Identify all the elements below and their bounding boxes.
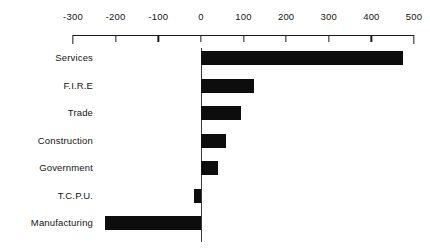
category-label: Trade [68, 107, 93, 118]
bar [201, 106, 241, 120]
x-tick-mark [158, 35, 159, 42]
bar [201, 161, 218, 175]
category-label: T.C.P.U. [58, 190, 93, 201]
bar [105, 216, 201, 230]
category-label: Services [55, 52, 93, 63]
x-tick-mark [200, 35, 201, 42]
x-tick-mark [115, 35, 116, 42]
bar [201, 79, 254, 93]
plot-area: ServicesF.I.R.ETradeConstructionGovernme… [0, 44, 430, 248]
bar-row: Manufacturing [0, 216, 430, 244]
x-tick-label: -300 [63, 11, 83, 22]
x-tick-label: 300 [321, 11, 337, 22]
category-label: F.I.R.E [63, 80, 93, 91]
category-label: Construction [38, 135, 93, 146]
bar [201, 51, 403, 65]
x-tick-label: -100 [148, 11, 168, 22]
x-tick-mark [243, 35, 244, 42]
x-tick-mark [328, 35, 329, 42]
bar-row: Services [0, 51, 430, 79]
x-tick-mark [285, 35, 286, 42]
x-tick-label: -200 [106, 11, 126, 22]
x-tick-label: 400 [363, 11, 379, 22]
bar [194, 189, 200, 203]
bar-row: Government [0, 161, 430, 189]
x-tick-mark [72, 35, 73, 44]
x-axis: -300-200-1000100200300400500 [0, 0, 430, 48]
bar-row: F.I.R.E [0, 79, 430, 107]
bar-row: T.C.P.U. [0, 189, 430, 217]
bar-chart: -300-200-1000100200300400500 ServicesF.I… [0, 0, 430, 248]
x-tick-label: 100 [235, 11, 251, 22]
bar-row: Trade [0, 106, 430, 134]
bar-row: Construction [0, 134, 430, 162]
x-tick-mark [413, 35, 414, 44]
x-tick-label: 0 [198, 11, 203, 22]
x-tick-label: 500 [406, 11, 422, 22]
category-label: Manufacturing [31, 217, 93, 228]
x-tick-label: 200 [278, 11, 294, 22]
x-tick-mark [371, 35, 372, 42]
bar [201, 134, 227, 148]
category-label: Government [39, 162, 93, 173]
